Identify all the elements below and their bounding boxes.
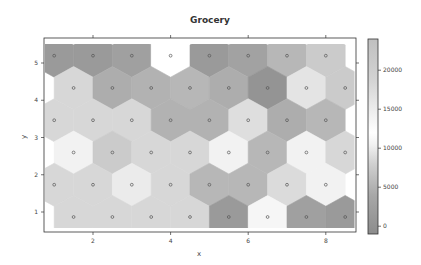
grocery-hexbin-chart: Grocery 246812345 x y 050001000015000200… xyxy=(0,0,421,265)
colorbar-ticks: 05000100001500020000 xyxy=(378,66,402,229)
x-tick-label: 8 xyxy=(324,237,328,244)
y-tick-label: 4 xyxy=(34,96,38,103)
colorbar-tick-label: 15000 xyxy=(383,105,402,112)
chart-title: Grocery xyxy=(190,15,230,25)
colorbar-tick-label: 20000 xyxy=(383,66,402,73)
y-tick-label: 5 xyxy=(34,59,38,66)
y-tick-label: 2 xyxy=(34,171,38,178)
colorbar-tick-label: 5000 xyxy=(383,183,398,190)
y-tick-label: 3 xyxy=(34,134,38,141)
x-tick-label: 4 xyxy=(169,237,173,244)
x-axis-label: x xyxy=(197,250,201,258)
y-tick-label: 1 xyxy=(34,208,38,215)
colorbar-gradient xyxy=(368,39,378,234)
x-tick-label: 6 xyxy=(246,237,250,244)
y-axis-label: y xyxy=(20,135,28,139)
hex-grid xyxy=(35,34,365,238)
x-tick-label: 2 xyxy=(91,237,95,244)
colorbar-tick-label: 0 xyxy=(383,222,387,229)
colorbar-tick-label: 10000 xyxy=(383,144,402,151)
colorbar: 05000100001500020000 xyxy=(368,39,402,234)
